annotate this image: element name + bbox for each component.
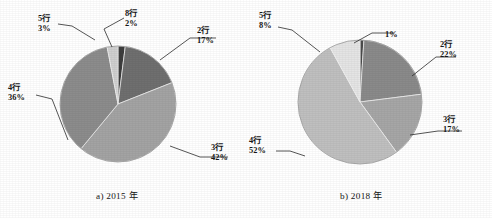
- pie-label-b-4hang: 4行 52%: [249, 136, 266, 156]
- pie-label-b-1pct: 1%: [385, 30, 398, 40]
- leader-line: [104, 18, 124, 47]
- pie-label-a-4hang: 4行 36%: [8, 83, 25, 103]
- pie-label-b-2hang: 2行 22%: [440, 40, 457, 60]
- caption-2015: a) 2015 年: [96, 188, 138, 202]
- pie-chart-2015: [0, 0, 492, 218]
- pie-label-a-8hang: 8行 2%: [125, 9, 138, 29]
- pie-label-a-5hang: 5行 3%: [38, 14, 51, 34]
- pie-label-a-2hang: 2行 17%: [197, 26, 214, 46]
- pie-label-a-3hang: 3行 42%: [211, 143, 228, 163]
- figure-two-pie-charts: 5行 3% 8行 2% 2行 17% 4行 36% 3行 42% 5行 8% 1…: [0, 0, 492, 218]
- caption-2018: b) 2018 年: [340, 188, 382, 202]
- pie-label-b-3hang: 3行 17%: [443, 115, 460, 135]
- leader-line: [58, 24, 95, 40]
- pie-label-b-5hang: 5行 8%: [259, 11, 272, 31]
